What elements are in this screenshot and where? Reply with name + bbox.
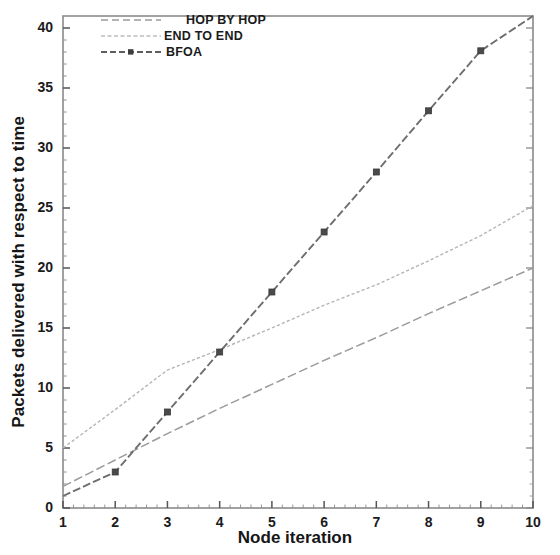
series-line-bfoa: [63, 16, 533, 496]
data-point-marker: [478, 48, 484, 54]
x-tick-label: 6: [309, 514, 339, 530]
chart-legend: HOP BY HOP END TO END BFOA: [100, 12, 290, 60]
legend-item-end-to-end: END TO END: [100, 28, 290, 44]
legend-label-bfoa: BFOA: [166, 45, 202, 59]
y-tick-label: 5: [19, 439, 53, 455]
x-axis-title: Node iteration: [60, 528, 530, 548]
y-tick-label: 35: [19, 79, 53, 95]
data-point-marker: [112, 469, 118, 475]
x-tick-label: 2: [100, 514, 130, 530]
series-line-end-to-end: [63, 206, 533, 448]
y-tick-label: 25: [19, 199, 53, 215]
data-point-marker: [217, 349, 223, 355]
data-point-marker: [321, 229, 327, 235]
y-tick-label: 15: [19, 319, 53, 335]
legend-item-bfoa: BFOA: [100, 44, 290, 60]
y-tick-label: 0: [19, 499, 53, 515]
y-tick-label: 40: [19, 19, 53, 35]
data-point-marker: [426, 108, 432, 114]
y-tick-label: 10: [19, 379, 53, 395]
data-point-marker: [269, 289, 275, 295]
series-line-hop-by-hop: [63, 268, 533, 486]
y-tick-label: 30: [19, 139, 53, 155]
x-tick-label: 1: [48, 514, 78, 530]
x-tick-label: 8: [414, 514, 444, 530]
x-tick-label: 4: [205, 514, 235, 530]
x-tick-label: 5: [257, 514, 287, 530]
data-point-marker: [164, 409, 170, 415]
x-tick-label: 10: [518, 514, 548, 530]
chart-figure: Packets delivered with respect to time N…: [0, 0, 560, 555]
y-tick-label: 20: [19, 259, 53, 275]
legend-swatch-bfoa: [100, 46, 162, 58]
x-tick-label: 9: [466, 514, 496, 530]
x-tick-label: 3: [152, 514, 182, 530]
legend-swatch-end-to-end: [100, 30, 162, 42]
legend-label-end-to-end: END TO END: [164, 29, 243, 43]
data-point-marker: [373, 169, 379, 175]
legend-label-hop-by-hop: HOP BY HOP: [186, 13, 266, 27]
x-tick-label: 7: [361, 514, 391, 530]
plot-area: [0, 0, 560, 555]
legend-item-hop-by-hop: HOP BY HOP: [100, 12, 290, 28]
legend-swatch-hop-by-hop: [100, 14, 162, 26]
